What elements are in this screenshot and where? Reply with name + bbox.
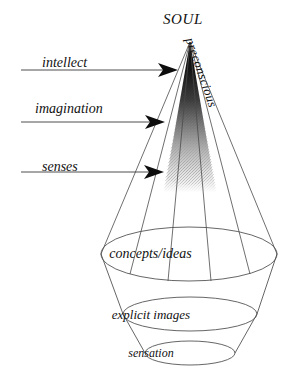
soul-apex-label: SOUL [163,12,203,27]
input-label-senses: senses [42,160,78,174]
cone-lower-walls [101,254,277,353]
soul-cone-diagram: SOUL preconscious intellect imagination … [0,0,292,384]
input-label-intellect: intellect [42,56,87,70]
arrow-imagination [21,115,165,129]
input-label-imagination: imagination [35,102,103,116]
level-label-explicit-images: explicit images [10,308,292,321]
level-label-concepts-ideas: concepts/ideas [9,247,292,261]
level-label-sensation: sensation [10,347,292,359]
